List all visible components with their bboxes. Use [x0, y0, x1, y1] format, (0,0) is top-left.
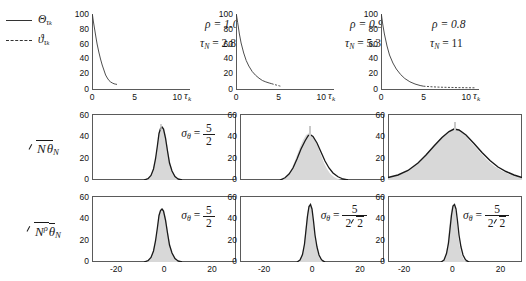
equals-r3c2: =	[333, 208, 340, 220]
sqrt-two-icon: 2	[351, 216, 364, 229]
ytick-r1-60: 60	[80, 39, 89, 49]
ytick-r3c3-20: 20	[376, 235, 385, 245]
sigma-den-r3c3: 22	[485, 216, 510, 229]
sigma-fraction-r3c2: 5 22	[342, 203, 367, 229]
ytick-r1-100: 100	[75, 9, 89, 19]
ytick-r3c1-20: 20	[80, 235, 89, 245]
solid-decay-curve	[236, 15, 271, 84]
xtick-r3c1-0: 0	[162, 264, 167, 274]
xtick-r3c1-20: 20	[207, 264, 216, 274]
xtick-r3c3-20: 20	[496, 264, 505, 274]
sigma-den-r3c2: 22	[342, 216, 367, 229]
histogram-r2c3	[388, 114, 522, 180]
histogram-fill	[240, 133, 384, 180]
ytick-r1c3-60: 60	[369, 39, 378, 49]
sigma-sub-r3c3: θ	[469, 213, 473, 222]
ytick-r2c2-0: 0	[232, 174, 237, 184]
ytick-r2c2-60: 60	[228, 110, 237, 120]
curve-r1c2	[236, 14, 334, 90]
solid-decay-curve	[381, 15, 423, 87]
ytick-r3c3-0: 0	[380, 256, 385, 266]
ytick-r2c3-40: 40	[376, 131, 385, 141]
sigma-num-r3c1: 5	[203, 204, 215, 217]
rho-value-c1: ρ = 1.0	[205, 18, 238, 31]
solid-decay-curve	[92, 15, 115, 85]
ytick-r1c2-20: 20	[224, 68, 233, 78]
plot-r3c1: 60 40 20 0 -20 0 20 σθ = 5 2	[92, 196, 236, 262]
sigma-num-r3c2: 5	[342, 203, 367, 216]
ytick-r2c1-0: 0	[84, 174, 89, 184]
histogram-fill	[388, 130, 522, 181]
plot-r3c2: 60 40 20 0 -20 0 20 σθ = 5 22	[240, 196, 384, 262]
ytick-r3c2-60: 60	[228, 192, 237, 202]
xtick-r3c2-20: 20	[355, 264, 364, 274]
sigma-annotation-r3c1: σθ = 5 2	[181, 204, 215, 229]
xaxis-label-r1c1: τk	[184, 90, 191, 103]
xtick-r3c2-neg20: -20	[258, 264, 270, 274]
sqrt-two-icon: 2	[494, 216, 507, 229]
xtick-r1c1-10: 10	[173, 92, 182, 102]
plot-r1c1: 100 80 60 40 20 0 0 5 10 τk	[92, 14, 190, 90]
sigma-annotation-r2c1: σθ = 5 2	[181, 122, 215, 147]
xtick-r1c3-10: 10	[462, 92, 471, 102]
plot-r1c2: 100 80 60 40 20 0 0 5 10 τk	[236, 14, 334, 90]
ytick-r1c3-20: 20	[369, 68, 378, 78]
ytick-r1c3-40: 40	[369, 53, 378, 63]
ytick-r3c2-20: 20	[228, 235, 237, 245]
figure-root: Θτk ϑτk NθN NρθN 100 80 60 40 20 0 0 5 1…	[0, 0, 526, 281]
xtick-r1c2-10: 10	[317, 92, 326, 102]
xtick-r1c2-5: 5	[276, 92, 281, 102]
xtick-r3c3-neg20: -20	[398, 264, 410, 274]
equals-r3c1: =	[194, 209, 201, 221]
legend-swatch-dashed-line	[6, 40, 32, 41]
sigma-fraction-r3c1: 5 2	[203, 204, 215, 229]
ytick-r2c1-60: 60	[80, 110, 89, 120]
xtick-r1c1-5: 5	[132, 92, 137, 102]
tauN-sub-c1: N	[204, 42, 209, 51]
ytick-r1-20: 20	[80, 68, 89, 78]
rho-value-c3: ρ = 0.8	[432, 18, 465, 31]
sigma-annotation-r3c3: σθ = 5 22	[463, 203, 509, 229]
ytick-r3c3-40: 40	[376, 213, 385, 223]
ytick-r2c2-40: 40	[228, 131, 237, 141]
sigma-sub-r3c1: θ	[187, 214, 191, 223]
xtick-r1c3-0: 0	[379, 92, 384, 102]
dashed-decay-curve	[424, 86, 475, 88]
plot-r3c3: 60 40 20 0 -20 0 20 σθ = 5 22	[388, 196, 522, 262]
ytick-r1c2-40: 40	[224, 53, 233, 63]
sigma-num-r2c1: 5	[203, 122, 215, 135]
ytick-r1c3-100: 100	[364, 9, 378, 19]
tauN-sub-c2: N	[349, 42, 354, 51]
equals-r3c3: =	[475, 208, 482, 220]
sigma-num-r3c3: 5	[485, 203, 510, 216]
tauN-sub-c3: N	[434, 42, 439, 51]
xtick-r3c2-0: 0	[310, 264, 315, 274]
xaxis-label-r1c2: τk	[328, 90, 335, 103]
ytick-r2c3-60: 60	[376, 110, 385, 120]
ytick-r2c2-20: 20	[228, 153, 237, 163]
ytick-r2c1-20: 20	[80, 153, 89, 163]
ytick-r3c1-0: 0	[84, 256, 89, 266]
ytick-r3c2-0: 0	[232, 256, 237, 266]
xtick-r3c1-neg20: -20	[110, 264, 122, 274]
annotation-rho-c2: ρ = 0.9	[350, 18, 383, 31]
sigma-sub-r3c2: θ	[326, 213, 330, 222]
row-label-sqrt-n-rho-theta: NρθN	[2, 222, 86, 241]
legend-entry-theta-capital: Θτk	[6, 10, 78, 30]
ytick-r1c2-0: 0	[228, 84, 233, 94]
plot-r2c3: 60 40 20 0	[388, 114, 522, 180]
rho-value-c2: ρ = 0.9	[350, 18, 383, 31]
ytick-r3c2-40: 40	[228, 213, 237, 223]
plot-r2c1: 60 40 20 0 σθ = 5 2	[92, 114, 236, 180]
sigma-den-r3c1: 2	[203, 217, 215, 229]
ytick-r1c2-80: 80	[224, 24, 233, 34]
sigma-sub-r2c1: θ	[187, 132, 191, 141]
sigma-den-r2c1: 2	[203, 135, 215, 147]
ytick-r1-40: 40	[80, 53, 89, 63]
ytick-r3c3-60: 60	[376, 192, 385, 202]
legend-label-theta-capital: Θτk	[38, 13, 52, 27]
xtick-r1c2-0: 0	[234, 92, 239, 102]
sigma-fraction-r2c1: 5 2	[203, 122, 215, 147]
xaxis-label-r1c3: τk	[473, 90, 480, 103]
ytick-r1c2-60: 60	[224, 39, 233, 49]
